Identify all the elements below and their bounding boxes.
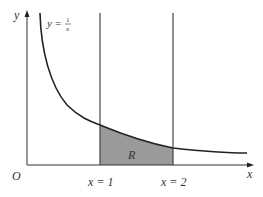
svg-text:x: x bbox=[65, 25, 70, 33]
origin-label: O bbox=[12, 169, 21, 183]
svg-text:1: 1 bbox=[66, 16, 70, 24]
vertical-label-x2: x = 2 bbox=[160, 175, 186, 189]
curve-reciprocal bbox=[40, 13, 247, 153]
function-label: y = 1 x bbox=[46, 16, 71, 33]
svg-text:y: y bbox=[46, 17, 52, 29]
area-under-curve-figure: y x O y = 1 x R x = 1 x = 2 bbox=[0, 0, 263, 197]
svg-text:=: = bbox=[55, 17, 61, 29]
y-axis-arrow-icon bbox=[25, 10, 30, 17]
y-axis-label: y bbox=[13, 8, 20, 22]
x-axis-label: x bbox=[246, 167, 253, 181]
vertical-label-x1: x = 1 bbox=[87, 175, 113, 189]
region-label: R bbox=[127, 148, 136, 162]
